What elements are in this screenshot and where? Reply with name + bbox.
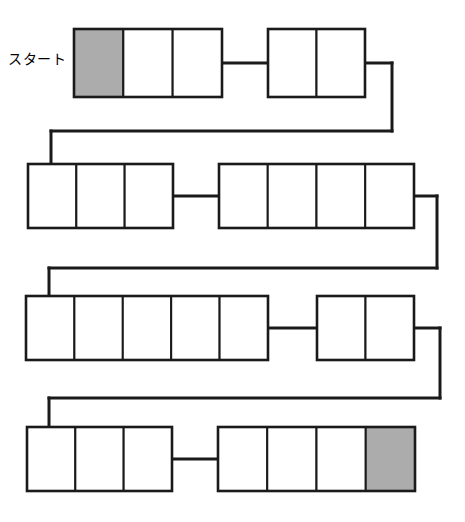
- start-label: スタート: [8, 48, 72, 68]
- cell[interactable]: [123, 296, 171, 360]
- block-r3b1: [26, 296, 268, 360]
- cell[interactable]: [267, 427, 316, 491]
- cell[interactable]: [28, 164, 76, 228]
- cell[interactable]: [26, 296, 74, 360]
- cell[interactable]: [365, 164, 414, 228]
- cell[interactable]: [125, 164, 173, 228]
- block-r3b2: [317, 296, 414, 360]
- cell[interactable]: [219, 164, 268, 228]
- block-r1b1: [74, 29, 222, 97]
- block-r2b1: [28, 164, 173, 228]
- serpentine-chain-diagram: [0, 0, 465, 522]
- cell[interactable]: [74, 29, 123, 97]
- cell[interactable]: [268, 29, 317, 97]
- cell[interactable]: [317, 29, 366, 97]
- cell[interactable]: [317, 427, 366, 491]
- block-r2b2: [219, 164, 414, 228]
- cell[interactable]: [123, 29, 172, 97]
- block-r4b2: [218, 427, 415, 491]
- cell[interactable]: [366, 427, 415, 491]
- block-r4b1: [27, 427, 172, 491]
- blocks-layer: [26, 29, 415, 491]
- cell[interactable]: [171, 296, 219, 360]
- cell[interactable]: [124, 427, 172, 491]
- cell[interactable]: [76, 164, 124, 228]
- cell[interactable]: [317, 296, 366, 360]
- block-r1b2: [268, 29, 365, 97]
- cell[interactable]: [220, 296, 268, 360]
- connectors-layer: [49, 63, 440, 459]
- cell[interactable]: [366, 296, 415, 360]
- cell[interactable]: [173, 29, 222, 97]
- diagram-canvas: スタート: [0, 0, 465, 522]
- cell[interactable]: [218, 427, 267, 491]
- cell[interactable]: [74, 296, 122, 360]
- cell[interactable]: [27, 427, 75, 491]
- cell[interactable]: [317, 164, 366, 228]
- cell[interactable]: [268, 164, 317, 228]
- cell[interactable]: [75, 427, 123, 491]
